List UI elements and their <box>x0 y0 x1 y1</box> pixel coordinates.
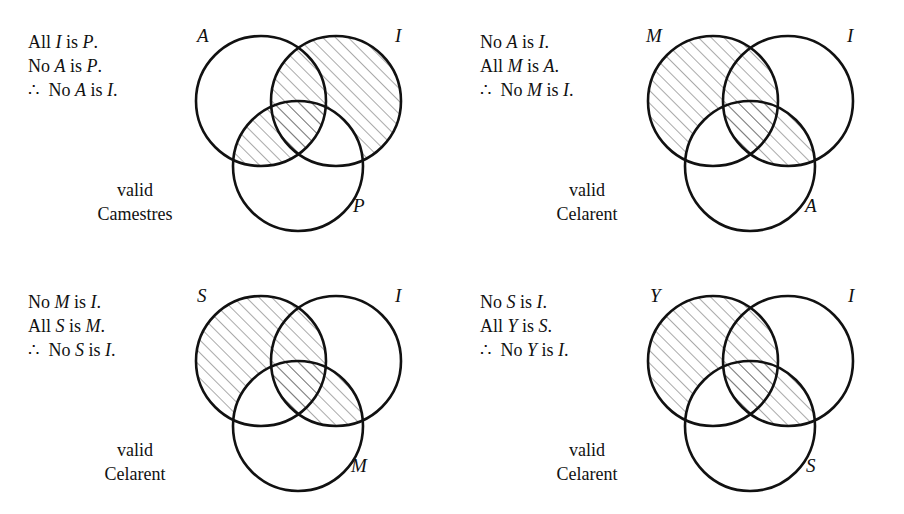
therefore-icon: ∴ <box>480 78 496 102</box>
syllogism-text-bottom-left: No M is I. All S is M. ∴ No S is I. <box>28 290 116 362</box>
venn-label-bottom: S <box>806 455 816 476</box>
syllogism-text-top-right: No A is I. All M is A. ∴ No M is I. <box>480 30 574 102</box>
conclusion-line: ∴ No M is I. <box>480 78 574 102</box>
premise-line: All I is P. <box>28 30 118 54</box>
term: S <box>539 316 548 336</box>
validity-label: valid <box>522 178 652 202</box>
conclusion-line: ∴ No Y is I. <box>480 338 569 362</box>
term: A <box>75 80 86 100</box>
syllogism-text-top-left: All I is P. No A is P. ∴ No A is I. <box>28 30 118 102</box>
venn-label-left: A <box>195 25 209 46</box>
term: Y <box>508 316 518 336</box>
validity-label: valid <box>70 178 200 202</box>
premise-line: All S is M. <box>28 314 116 338</box>
venn-diagram-bottom-right: Y I S <box>638 276 878 514</box>
verdict-bottom-left: valid Celarent <box>70 438 200 486</box>
mood-name-label: Celarent <box>522 462 652 486</box>
therefore-icon: ∴ <box>28 78 44 102</box>
panel-top-right: No A is I. All M is A. ∴ No M is I. vali… <box>452 8 904 258</box>
conclusion-line: ∴ No S is I. <box>28 338 116 362</box>
term: S <box>56 316 65 336</box>
term: M <box>527 80 542 100</box>
verdict-bottom-right: valid Celarent <box>522 438 652 486</box>
venn-label-left: M <box>645 25 663 46</box>
term: S <box>507 292 516 312</box>
premise-line: No M is I. <box>28 290 116 314</box>
premise-line: All M is A. <box>480 54 574 78</box>
mood-name-label: Celarent <box>70 462 200 486</box>
term: M <box>86 316 101 336</box>
venn-label-bottom: A <box>803 195 817 216</box>
venn-label-right: I <box>847 285 856 306</box>
venn-label-right: I <box>394 285 403 306</box>
premise-line: No A is P. <box>28 54 118 78</box>
verdict-top-right: valid Celarent <box>522 178 652 226</box>
venn-label-right: I <box>394 25 403 46</box>
venn-label-bottom: P <box>352 195 365 216</box>
term: M <box>508 56 523 76</box>
term: P <box>83 32 94 52</box>
venn-label-bottom: M <box>350 455 368 476</box>
premise-line: No S is I. <box>480 290 569 314</box>
syllogism-text-bottom-right: No S is I. All Y is S. ∴ No Y is I. <box>480 290 569 362</box>
venn-diagram-bottom-left: S I M <box>186 276 426 514</box>
term: A <box>507 32 518 52</box>
term: A <box>55 56 66 76</box>
therefore-icon: ∴ <box>28 338 44 362</box>
panel-top-left: All I is P. No A is P. ∴ No A is I. vali… <box>0 8 452 258</box>
validity-label: valid <box>70 438 200 462</box>
venn-label-right: I <box>846 25 855 46</box>
validity-label: valid <box>522 438 652 462</box>
premise-line: All Y is S. <box>480 314 569 338</box>
venn-label-left: S <box>197 285 207 306</box>
term: A <box>544 56 555 76</box>
term: M <box>55 292 70 312</box>
mood-name-label: Camestres <box>70 202 200 226</box>
conclusion-line: ∴ No A is I. <box>28 78 118 102</box>
panel-bottom-left: No M is I. All S is M. ∴ No S is I. vali… <box>0 268 452 514</box>
therefore-icon: ∴ <box>480 338 496 362</box>
term: P <box>87 56 98 76</box>
venn-diagram-top-right: M I A <box>638 16 878 256</box>
venn-diagram-top-left: A I P <box>186 16 426 256</box>
mood-name-label: Celarent <box>522 202 652 226</box>
panel-bottom-right: No S is I. All Y is S. ∴ No Y is I. vali… <box>452 268 904 514</box>
premise-line: No A is I. <box>480 30 574 54</box>
term: S <box>75 340 84 360</box>
venn-label-left: Y <box>650 285 663 306</box>
term: Y <box>527 340 537 360</box>
verdict-top-left: valid Camestres <box>70 178 200 226</box>
